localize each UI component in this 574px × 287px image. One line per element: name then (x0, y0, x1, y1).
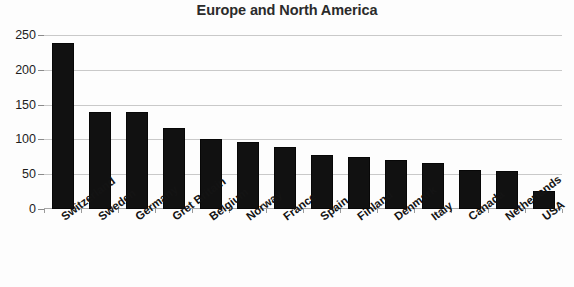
bar-chart: Europe and North America 050100150200250… (0, 0, 574, 287)
y-axis-tick-label: 50 (0, 167, 36, 181)
bar (52, 43, 74, 209)
y-axis-tick-label: 250 (0, 28, 36, 42)
gridline (44, 174, 562, 175)
y-axis: 050100150200250 (0, 35, 44, 209)
gridline (44, 139, 562, 140)
gridline (44, 35, 562, 36)
y-axis-tick-label: 150 (0, 98, 36, 112)
x-axis-labels: SwitzerlandSwedenGermanyGret BritainBelg… (44, 213, 574, 287)
y-axis-tick-label: 200 (0, 63, 36, 77)
bar (348, 157, 370, 209)
gridline (44, 105, 562, 106)
gridline (44, 70, 562, 71)
y-axis-tick-label: 0 (0, 202, 36, 216)
y-axis-tick-label: 100 (0, 132, 36, 146)
plot-area (44, 35, 562, 209)
chart-title: Europe and North America (0, 2, 574, 18)
